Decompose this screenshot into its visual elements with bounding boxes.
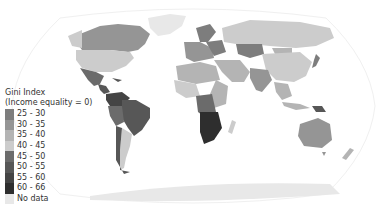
legend-label: 40 - 45 <box>17 141 45 151</box>
legend-swatch <box>5 194 14 205</box>
map-legend: Gini Index (Income equality = 0) 25 - 30… <box>5 88 92 204</box>
legend-items: 25 - 30 30 - 35 35 - 40 40 - 45 45 - 50 … <box>5 109 92 204</box>
legend-label: 25 - 30 <box>17 109 45 119</box>
legend-swatch <box>5 130 14 141</box>
legend-label: 50 - 55 <box>17 162 45 172</box>
legend-label: 60 - 66 <box>17 183 45 193</box>
legend-swatch <box>5 141 14 152</box>
legend-swatch <box>5 183 14 194</box>
legend-item: 30 - 35 <box>5 120 92 131</box>
legend-item: 50 - 55 <box>5 162 92 173</box>
legend-swatch <box>5 151 14 162</box>
legend-swatch <box>5 109 14 120</box>
legend-item: 35 - 40 <box>5 130 92 141</box>
legend-label: 35 - 40 <box>17 130 45 140</box>
legend-item: 25 - 30 <box>5 109 92 120</box>
legend-label: 30 - 35 <box>17 120 45 130</box>
legend-item: 45 - 50 <box>5 151 92 162</box>
legend-swatch <box>5 162 14 173</box>
legend-swatch <box>5 120 14 131</box>
legend-subtitle: (Income equality = 0) <box>5 98 92 108</box>
legend-swatch <box>5 173 14 184</box>
legend-label: 55 - 60 <box>17 173 45 183</box>
legend-item: 60 - 66 <box>5 183 92 194</box>
legend-item: No data <box>5 194 92 205</box>
legend-item: 55 - 60 <box>5 173 92 184</box>
legend-label: 45 - 50 <box>17 152 45 162</box>
legend-item: 40 - 45 <box>5 141 92 152</box>
legend-title: Gini Index <box>5 88 92 98</box>
legend-label: No data <box>17 194 48 204</box>
